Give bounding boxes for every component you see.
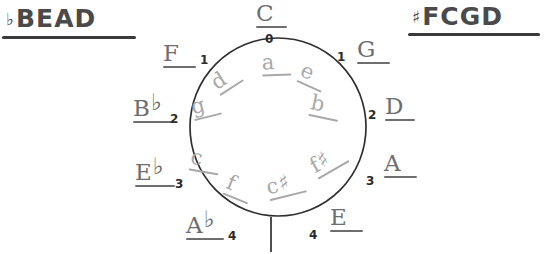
worksheet-canvas: ♭BEAD ♯FCGD C 0 F 1 B♭ 2 E♭ 3 A♭ 4 bbox=[0, 0, 552, 254]
underline-Eb bbox=[135, 185, 175, 187]
major-acc-Bb: ♭ bbox=[151, 91, 162, 114]
count-D: 2 bbox=[368, 108, 376, 122]
underline-E bbox=[330, 230, 363, 232]
major-label-Ab: A♭ bbox=[186, 208, 224, 240]
major-note-G: G bbox=[357, 38, 375, 61]
minor-label-c: c bbox=[189, 147, 223, 176]
major-label-C: C bbox=[256, 2, 287, 28]
major-label-D: D bbox=[385, 95, 415, 121]
underline-D bbox=[385, 119, 415, 121]
minor-label-a: a bbox=[262, 52, 292, 77]
circle-of-fifths-diagram bbox=[0, 0, 552, 254]
major-label-E: E bbox=[330, 206, 363, 232]
count-A: 3 bbox=[366, 174, 374, 188]
major-note-E: E bbox=[330, 206, 347, 229]
count-E: 4 bbox=[309, 228, 317, 242]
underline-Bb bbox=[133, 121, 173, 123]
major-label-Eb: E♭ bbox=[135, 155, 175, 187]
major-note-Eb: E bbox=[135, 161, 152, 184]
minor-note-b: b bbox=[309, 92, 327, 115]
major-label-G: G bbox=[357, 38, 390, 64]
major-label-F: F bbox=[163, 42, 196, 68]
minor-note-c: c bbox=[189, 147, 204, 170]
count-C: 0 bbox=[265, 32, 273, 46]
underline-G bbox=[357, 62, 390, 64]
underline-F bbox=[163, 66, 196, 68]
underline-Ab bbox=[186, 238, 224, 240]
underline-A bbox=[384, 176, 417, 178]
count-F: 1 bbox=[200, 53, 208, 67]
major-acc-Ab: ♭ bbox=[204, 208, 215, 231]
major-acc-Eb: ♭ bbox=[153, 155, 164, 178]
major-label-A: A bbox=[384, 152, 417, 178]
major-note-A: A bbox=[384, 152, 401, 175]
count-G: 1 bbox=[337, 50, 345, 64]
major-note-D: D bbox=[385, 95, 403, 118]
major-note-C: C bbox=[256, 2, 274, 25]
count-Ab: 4 bbox=[228, 229, 236, 243]
count-Eb: 3 bbox=[175, 177, 183, 191]
count-Bb: 2 bbox=[170, 112, 178, 126]
major-note-F: F bbox=[163, 42, 179, 65]
major-note-Ab: A bbox=[186, 214, 203, 237]
major-label-Bb: B♭ bbox=[133, 91, 173, 123]
circle-svg bbox=[0, 0, 552, 254]
major-note-Bb: B bbox=[133, 97, 150, 120]
underline-C bbox=[256, 26, 287, 28]
minor-note-a: a bbox=[262, 52, 275, 73]
